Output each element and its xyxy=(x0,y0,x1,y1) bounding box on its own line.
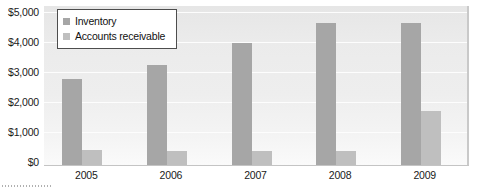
y-axis-tick-label: $5,000 xyxy=(8,7,39,18)
bar-inventory-2006 xyxy=(147,65,167,166)
y-axis-tick-label: $4,000 xyxy=(8,37,39,48)
bar-inventory-2005 xyxy=(62,79,82,165)
x-axis-tick-label: 2005 xyxy=(44,168,129,182)
x-axis-tick-label: 2008 xyxy=(298,168,383,182)
bar-accounts-receivable-2008 xyxy=(336,151,356,165)
legend-item-accounts-receivable: Accounts receivable xyxy=(63,29,171,44)
bar-inventory-2008 xyxy=(316,23,336,166)
legend-item-inventory: Inventory xyxy=(63,14,171,29)
legend-item-label: Accounts receivable xyxy=(75,31,165,42)
bar-inventory-2007 xyxy=(232,43,252,165)
y-axis-tick-label: $1,000 xyxy=(8,127,39,138)
y-axis-tick-label: $3,000 xyxy=(8,67,39,78)
bar-chart: $5,000 $4,000 $3,000 $2,000 $1,000 $0 20… xyxy=(0,0,481,192)
legend-swatch-icon xyxy=(63,33,70,40)
y-axis-tick-label: $0 xyxy=(28,157,39,168)
bar-accounts-receivable-2009 xyxy=(421,111,441,165)
x-axis-baseline xyxy=(44,165,469,166)
bar-accounts-receivable-2007 xyxy=(252,151,272,165)
y-axis-tick-label: $2,000 xyxy=(8,97,39,108)
y-axis: $5,000 $4,000 $3,000 $2,000 $1,000 $0 xyxy=(0,0,42,192)
bar-inventory-2009 xyxy=(401,23,421,166)
chart-legend: Inventory Accounts receivable xyxy=(57,9,177,49)
x-axis: 20052006200720082009 xyxy=(44,168,467,186)
x-axis-tick-label: 2006 xyxy=(129,168,214,182)
dotted-line-artifact xyxy=(2,185,52,187)
legend-item-label: Inventory xyxy=(75,16,116,27)
legend-swatch-icon xyxy=(63,18,70,25)
bar-accounts-receivable-2005 xyxy=(82,150,102,165)
x-axis-tick-label: 2007 xyxy=(213,168,298,182)
x-axis-tick-label: 2009 xyxy=(382,168,467,182)
bar-accounts-receivable-2006 xyxy=(167,151,187,165)
